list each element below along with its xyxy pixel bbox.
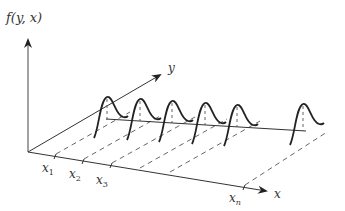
gaussian-curve-2 <box>127 99 161 140</box>
gaussian-curve-5 <box>224 105 258 146</box>
regression-diagram: f(y, x) y x x1 x2 x3 xn <box>0 0 345 211</box>
svg-text:x2: x2 <box>69 167 81 183</box>
horizontal-axis <box>28 152 266 191</box>
gaussian-curves <box>94 97 324 146</box>
vertical-axis-label: f(y, x) <box>5 10 42 25</box>
depth-axis-label: y <box>167 61 175 75</box>
svg-text:x3: x3 <box>96 173 108 189</box>
gaussian-curve-4 <box>192 103 226 144</box>
svg-text:x1: x1 <box>42 161 54 177</box>
svg-text:xn: xn <box>229 191 241 207</box>
gaussian-curve-3 <box>159 101 193 142</box>
gaussian-curve-6 <box>290 104 324 145</box>
mean-line <box>106 119 306 131</box>
tick-labels: x1 x2 x3 xn <box>42 161 241 207</box>
horizontal-axis-label: x <box>274 187 281 201</box>
